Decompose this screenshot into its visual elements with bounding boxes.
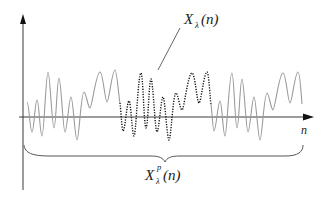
signal-diagram: X λ (n) n X p λ (n) (0, 0, 327, 200)
segment-label: X λ (n) (183, 11, 219, 30)
y-axis-arrow-icon (20, 14, 26, 24)
periodic-brace (24, 145, 303, 162)
x-axis-label: n (301, 123, 307, 137)
segment-label-subscript: λ (194, 20, 199, 30)
segment-label-argument: (n) (201, 11, 219, 28)
periodic-label-subscript: λ (155, 176, 160, 186)
segment-label-symbol: X (183, 11, 194, 27)
highlighted-segment-wave (120, 72, 211, 140)
periodic-label: X p λ (n) (144, 162, 181, 186)
periodic-label-symbol: X (144, 167, 155, 183)
x-axis-arrow-icon (303, 114, 314, 121)
periodic-label-superscript: p (156, 162, 161, 172)
periodic-wave-right (211, 72, 302, 140)
segment-leader-line (158, 28, 180, 70)
periodic-label-argument: (n) (163, 167, 181, 184)
periodic-wave-left (27, 70, 120, 140)
